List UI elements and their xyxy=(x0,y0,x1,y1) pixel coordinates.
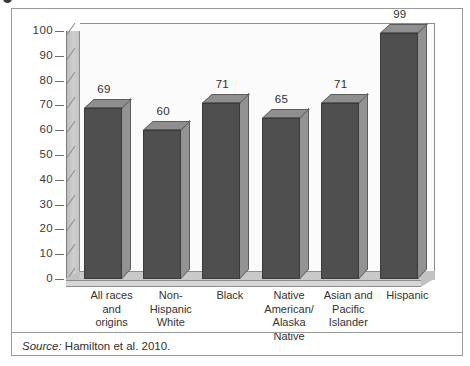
axis-wall-rung xyxy=(67,96,76,108)
x-axis-category-line: All races xyxy=(79,289,145,303)
bar-chart: 1009080706050403020100 696071657199 All … xyxy=(11,8,463,328)
axis-wall-rung xyxy=(67,145,76,157)
source-note: Source: Hamilton et al. 2010. xyxy=(22,340,170,352)
bar-value-label: 71 xyxy=(313,78,369,90)
source-divider xyxy=(11,332,463,333)
axis-3d-wall xyxy=(66,31,80,279)
y-axis-tick-label: 20 xyxy=(23,223,53,234)
y-axis-tick-mark xyxy=(55,155,64,156)
bar-value-label: 69 xyxy=(76,83,132,95)
y-axis-tick-mark xyxy=(55,254,64,255)
x-axis-category-label: Asian andPacificIslander xyxy=(315,289,381,330)
x-axis-category-line: Pacific xyxy=(315,303,381,317)
y-axis-tick-mark xyxy=(55,205,64,206)
x-axis-category-line: Non- xyxy=(138,289,204,303)
bar-side-face xyxy=(418,23,427,279)
bar-3d-body[interactable] xyxy=(143,130,181,279)
y-axis-tick-label: 100 xyxy=(23,25,53,36)
bar-3d-body[interactable] xyxy=(262,118,300,279)
y-axis-tick-label: 90 xyxy=(23,50,53,61)
axis-wall-rung xyxy=(67,23,76,35)
bar-side-face xyxy=(300,108,309,279)
axis-wall-rung xyxy=(67,243,76,255)
bar-column[interactable]: 65 xyxy=(258,106,317,279)
x-axis-category-line: Islander xyxy=(315,316,381,330)
bar-value-label: 65 xyxy=(254,93,310,105)
y-axis-tick-mark xyxy=(55,130,64,131)
bar-value-label: 60 xyxy=(135,105,191,117)
y-axis-tick-mark xyxy=(55,229,64,230)
y-axis-tick-label: 60 xyxy=(23,124,53,135)
axis-wall-rung xyxy=(67,47,76,59)
x-axis-category-label: Hispanic xyxy=(374,289,440,303)
y-axis-tick-label: 50 xyxy=(23,149,53,160)
axis-wall-rung xyxy=(67,170,76,182)
y-axis-labels: 1009080706050403020100 xyxy=(21,8,53,328)
bar-side-face xyxy=(240,93,249,279)
y-axis-tick-label: 0 xyxy=(23,273,53,284)
x-axis-category-line: and xyxy=(79,303,145,317)
axis-wall-rung xyxy=(67,194,76,206)
x-axis-category-line: Native xyxy=(256,289,322,303)
x-axis-category-line: Black xyxy=(197,289,263,303)
bar-value-label: 71 xyxy=(194,78,250,90)
bar-side-face xyxy=(359,93,368,279)
source-label: Source: xyxy=(22,340,62,352)
caption-glyph-stub xyxy=(3,0,12,3)
x-axis-category-line: American/ xyxy=(256,303,322,317)
axis-wall-rung xyxy=(67,121,76,133)
x-axis-category-label: All racesandorigins xyxy=(79,289,145,330)
source-citation: Hamilton et al. 2010. xyxy=(62,340,171,352)
x-axis-category-line: Hispanic xyxy=(374,289,440,303)
bar-column[interactable]: 71 xyxy=(198,91,257,279)
bar-front-face xyxy=(84,108,122,279)
bar-side-face xyxy=(181,120,190,279)
bar-front-face xyxy=(321,103,359,279)
x-axis-category-line: Hispanic xyxy=(138,303,204,317)
bar-front-face xyxy=(143,130,181,279)
bar-3d-body[interactable] xyxy=(380,33,418,279)
y-axis-tick-mark xyxy=(55,180,64,181)
bar-side-face xyxy=(122,98,131,279)
y-axis-tick-mark xyxy=(55,279,64,280)
y-axis-tick-mark xyxy=(55,81,64,82)
y-axis-tick-label: 40 xyxy=(23,174,53,185)
y-axis-tick-mark xyxy=(55,56,64,57)
bar-column[interactable]: 71 xyxy=(317,91,376,279)
x-axis-category-line: White xyxy=(138,316,204,330)
x-axis-category-line: origins xyxy=(79,316,145,330)
bar-3d-body[interactable] xyxy=(84,108,122,279)
y-axis-tick-mark xyxy=(55,105,64,106)
x-axis-category-line: Asian and xyxy=(315,289,381,303)
y-axis-tick-label: 80 xyxy=(23,75,53,86)
x-axis-category-label: Non-HispanicWhite xyxy=(138,289,204,330)
bar-front-face xyxy=(202,103,240,279)
bar-3d-body[interactable] xyxy=(321,103,359,279)
bar-column[interactable]: 69 xyxy=(80,96,139,279)
bar-series: 696071657199 xyxy=(80,23,435,287)
bar-front-face xyxy=(262,118,300,279)
bar-value-label: 99 xyxy=(372,8,428,20)
y-axis-tick-label: 70 xyxy=(23,99,53,110)
axis-wall-rung xyxy=(67,219,76,231)
axis-wall-rung xyxy=(67,72,76,84)
x-axis-category-label: Black xyxy=(197,289,263,303)
y-axis-tick-label: 30 xyxy=(23,199,53,210)
bar-column[interactable]: 99 xyxy=(376,21,435,279)
bar-3d-body[interactable] xyxy=(202,103,240,279)
bar-front-face xyxy=(380,33,418,279)
bar-column[interactable]: 60 xyxy=(139,118,198,279)
y-axis-tick-label: 10 xyxy=(23,248,53,259)
x-axis-category-line: Alaska xyxy=(256,316,322,330)
x-axis-category-label: NativeAmerican/AlaskaNative xyxy=(256,289,322,343)
y-axis-tick-mark xyxy=(55,31,64,32)
